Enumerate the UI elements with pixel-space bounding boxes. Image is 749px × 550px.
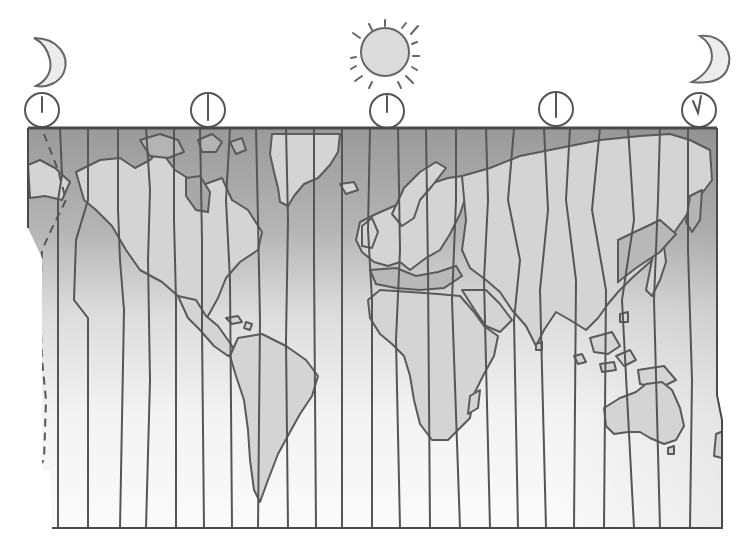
sun-icon (351, 20, 419, 88)
clock-icon-1 (25, 93, 59, 127)
crescent-moon-icon-right (692, 36, 729, 83)
time-zone-diagram (0, 0, 749, 550)
clock-icon-2 (191, 93, 225, 127)
clock-icon-3-noon (370, 94, 404, 128)
clock-icon-5 (682, 93, 716, 127)
crescent-moon-icon-left (34, 38, 66, 86)
world-map (20, 128, 730, 538)
clock-icon-4 (539, 92, 573, 126)
land-tasmania (668, 446, 674, 454)
